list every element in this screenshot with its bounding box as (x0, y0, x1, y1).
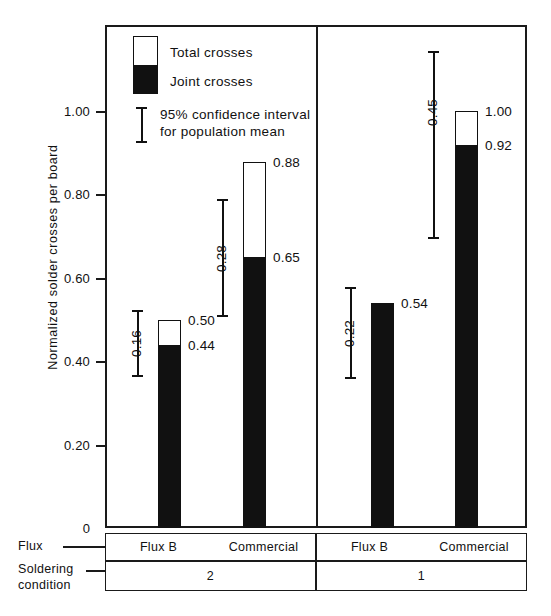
bar-label-joint-p1-commercial: 0.92 (485, 138, 512, 153)
bar-total-p2-commercial (243, 162, 266, 258)
y-tick-0.40 (96, 361, 105, 363)
bar-label-total-p1-commercial: 1.00 (485, 104, 512, 119)
y-tick-0.80 (96, 194, 105, 196)
ci-stem (141, 107, 143, 143)
bar-joint-p1-commercial (455, 145, 478, 528)
y-tick-label-0: 0 (78, 521, 90, 536)
condition-cell-1: 1 (317, 562, 526, 590)
ci-cap-top (136, 107, 147, 109)
flux-row-label: Flux (18, 539, 43, 553)
legend-swatch-joint-fill (134, 65, 157, 93)
bar-label-total-p2-fluxb: 0.50 (188, 313, 215, 328)
legend-label-total: Total crosses (170, 45, 253, 60)
condition-row-leader (86, 570, 105, 572)
ci-label-p2-commercial: 0.28 (214, 245, 229, 272)
condition-row-label-line2: condition (18, 578, 71, 592)
y-tick-1.00 (96, 111, 105, 113)
y-tick-label-0.20: 0.20 (42, 438, 90, 453)
condition-row-label-line1: Soldering (18, 562, 74, 576)
flux-row: Flux B Commercial Flux B Commercial (105, 533, 527, 561)
y-tick-0.20 (96, 445, 105, 447)
flux-row-leader (63, 546, 105, 548)
flux-cell-p1-commercial: Commercial (422, 534, 526, 560)
ci-bar-p1-commercial (428, 51, 439, 239)
panel-divider (316, 25, 318, 528)
legend-swatch (133, 36, 158, 94)
legend-ci-line2: for population mean (160, 124, 285, 139)
bar-label-joint-p1-fluxb: 0.54 (401, 296, 428, 311)
ci-label-p2-fluxb: 0.16 (129, 330, 144, 357)
bar-joint-p2-fluxb (158, 345, 181, 528)
condition-cell-2: 2 (106, 562, 315, 590)
flux-cell-p2-commercial: Commercial (211, 534, 316, 560)
bar-joint-p2-commercial (243, 257, 266, 528)
legend-label-joint: Joint crosses (170, 74, 253, 89)
condition-row: 2 1 (105, 561, 527, 591)
y-tick-0.60 (96, 278, 105, 280)
flux-cell-p1-fluxb: Flux B (317, 534, 422, 560)
bar-total-p2-fluxb (158, 320, 181, 346)
legend-ci-line1: 95% confidence interval (160, 107, 310, 122)
legend-ci-symbol (136, 107, 147, 143)
bar-label-total-p2-commercial: 0.88 (273, 155, 300, 170)
bar-label-joint-p2-commercial: 0.65 (273, 250, 300, 265)
y-axis-title: Normalized solder crosses per board (46, 142, 60, 372)
ci-cap-bottom (136, 141, 147, 143)
bar-label-joint-p2-fluxb: 0.44 (188, 338, 215, 353)
bar-total-p1-commercial (455, 111, 478, 146)
ci-label-p1-commercial: 0.45 (425, 99, 440, 126)
ci-label-p1-fluxb: 0.22 (342, 320, 357, 347)
flux-cell-p2-fluxb: Flux B (106, 534, 211, 560)
y-tick-label-1.00: 1.00 (42, 104, 90, 119)
bar-joint-p1-fluxb (371, 303, 394, 528)
